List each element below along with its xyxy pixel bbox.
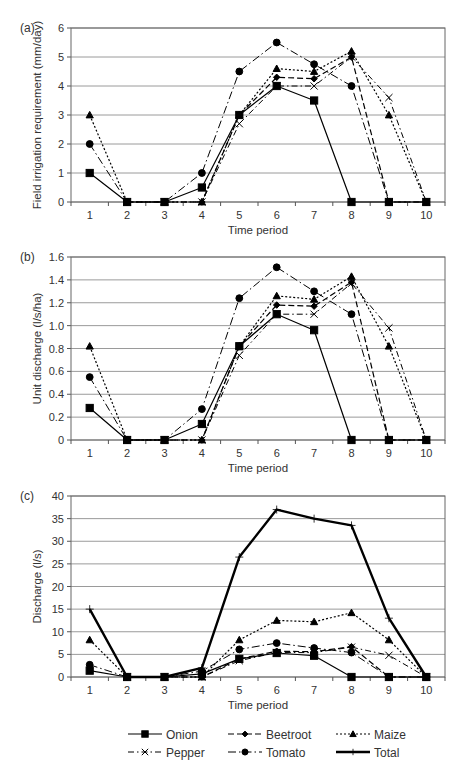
x-tick-label: 4	[199, 447, 205, 459]
legend-item-onion: Onion	[128, 728, 228, 743]
legend-item-pepper: Pepper	[128, 746, 228, 761]
x-tick-label: 5	[236, 209, 242, 221]
x-tick-label: 3	[161, 684, 167, 696]
y-tick-label: 0	[58, 434, 64, 446]
y-tick-label: 2	[58, 138, 64, 150]
panel-label: (a)	[20, 21, 35, 35]
y-tick-label: 0	[58, 196, 64, 208]
charts-canvas: 012345612345678910Time periodField irrig…	[0, 0, 462, 770]
y-tick-label: 1	[58, 167, 64, 179]
x-tick-label: 6	[274, 447, 280, 459]
x-tick-label: 10	[420, 684, 432, 696]
x-tick-label: 3	[161, 209, 167, 221]
x-tick-label: 1	[87, 209, 93, 221]
legend-swatch-tomato-circle-icon	[228, 746, 266, 761]
legend-label-tomato: Tomato	[266, 746, 305, 760]
x-tick-label: 8	[348, 447, 354, 459]
x-tick-label: 8	[348, 209, 354, 221]
legend: Onion Beetroot Maize Pepper Tomato Total	[128, 726, 448, 762]
y-tick-label: 0.2	[49, 411, 64, 423]
y-tick-label: 5	[58, 648, 64, 660]
series-maize	[86, 609, 430, 680]
series-tomato	[86, 264, 429, 444]
x-tick-label: 1	[87, 684, 93, 696]
y-tick-label: 1.6	[49, 251, 64, 263]
y-tick-label: 25	[52, 558, 64, 570]
x-tick-label: 5	[236, 447, 242, 459]
x-tick-label: 2	[124, 447, 130, 459]
x-tick-label: 6	[274, 209, 280, 221]
y-axis-label: Unit discharge (l/s/ha)	[31, 292, 43, 404]
y-tick-label: 0.6	[49, 365, 64, 377]
x-tick-label: 8	[348, 684, 354, 696]
legend-item-maize: Maize	[336, 728, 436, 743]
series-tomato	[86, 640, 429, 681]
legend-swatch-onion-square-icon	[128, 728, 166, 743]
y-axis-label: Discharge (l/s)	[31, 549, 43, 623]
x-tick-label: 3	[161, 447, 167, 459]
series-maize	[86, 48, 430, 205]
legend-label-beetroot: Beetroot	[266, 728, 311, 742]
x-tick-label: 7	[311, 684, 317, 696]
legend-swatch-pepper-x-icon	[128, 746, 166, 761]
y-tick-label: 20	[52, 581, 64, 593]
legend-item-beetroot: Beetroot	[228, 728, 336, 743]
y-tick-label: 1.0	[49, 320, 64, 332]
chart-c: 051015202530354012345678910Time periodDi…	[20, 489, 445, 711]
y-tick-label: 6	[58, 22, 64, 34]
legend-label-onion: Onion	[166, 728, 198, 742]
x-tick-label: 5	[236, 684, 242, 696]
x-axis-label: Time period	[228, 462, 288, 474]
legend-item-tomato: Tomato	[228, 746, 336, 761]
chart-a: 012345612345678910Time periodField irrig…	[20, 21, 445, 236]
legend-item-total: Total	[336, 746, 436, 761]
y-tick-label: 15	[52, 603, 64, 615]
legend-swatch-total-plus-icon	[336, 746, 374, 761]
x-axis-label: Time period	[228, 224, 288, 236]
legend-label-total: Total	[374, 746, 399, 760]
y-tick-label: 5	[58, 51, 64, 63]
x-tick-label: 1	[87, 447, 93, 459]
panel-label: (b)	[20, 250, 35, 264]
x-axis-label: Time period	[228, 699, 288, 711]
y-tick-label: 1.4	[49, 274, 64, 286]
legend-swatch-beetroot-diamond-icon	[228, 728, 266, 743]
x-tick-label: 9	[386, 684, 392, 696]
y-tick-label: 30	[52, 535, 64, 547]
legend-swatch-maize-triangle-icon	[336, 728, 374, 743]
legend-row-2: Pepper Tomato Total	[128, 744, 448, 762]
x-tick-label: 10	[420, 209, 432, 221]
x-tick-label: 9	[386, 209, 392, 221]
panel-label: (c)	[20, 489, 34, 503]
y-axis-label: Field irrigation requirement (mm/day)	[31, 21, 43, 210]
y-tick-label: 35	[52, 513, 64, 525]
x-tick-label: 2	[124, 684, 130, 696]
x-tick-label: 6	[274, 684, 280, 696]
y-tick-label: 0.4	[49, 388, 64, 400]
x-tick-label: 4	[199, 209, 205, 221]
x-tick-label: 7	[311, 447, 317, 459]
series-onion	[86, 311, 430, 444]
series-tomato	[86, 39, 429, 205]
y-tick-label: 1.2	[49, 297, 64, 309]
x-tick-label: 2	[124, 209, 130, 221]
chart-b: 00.20.40.60.81.01.21.41.612345678910Time…	[20, 250, 445, 474]
series-beetroot	[124, 54, 430, 205]
legend-label-maize: Maize	[374, 728, 406, 742]
y-tick-label: 3	[58, 109, 64, 121]
x-tick-label: 7	[311, 209, 317, 221]
y-tick-label: 10	[52, 626, 64, 638]
legend-label-pepper: Pepper	[166, 746, 205, 760]
y-tick-label: 40	[52, 490, 64, 502]
legend-row-1: Onion Beetroot Maize	[128, 726, 448, 744]
x-tick-label: 9	[386, 447, 392, 459]
y-tick-label: 0.8	[49, 343, 64, 355]
y-tick-label: 0	[58, 671, 64, 683]
y-tick-label: 4	[58, 80, 64, 92]
series-beetroot	[124, 279, 430, 443]
x-tick-label: 4	[199, 684, 205, 696]
x-tick-label: 10	[420, 447, 432, 459]
